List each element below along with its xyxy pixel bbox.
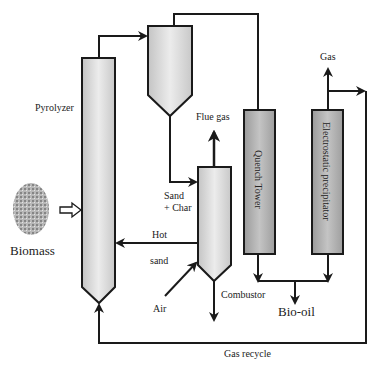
combustor-vessel	[198, 167, 231, 281]
air-line	[165, 263, 196, 296]
gas-label: Gas	[320, 52, 336, 62]
pyrolyzer-to-cyclone-line	[99, 36, 146, 58]
air-label: Air	[153, 304, 166, 314]
gas-recycle-label: Gas recycle	[224, 349, 271, 359]
sand-char-label-1: Sand	[164, 191, 184, 201]
pyrolyzer-label: Pyrolyzer	[35, 103, 74, 113]
cyclone-vessel	[148, 26, 192, 116]
biomass-feed-arrow	[60, 203, 81, 217]
sand-char-line	[170, 116, 196, 182]
hot-sand-label-1: Hot	[152, 230, 167, 240]
flue-gas-label: Flue gas	[196, 112, 230, 122]
combustor-label: Combustor	[221, 290, 265, 300]
sand-char-label-2: + Char	[164, 203, 192, 213]
hot-sand-label-2: sand	[150, 256, 168, 266]
esp-label: Electrostatic precipitator	[321, 122, 331, 221]
quench-tower-label: Quench Tower	[253, 150, 263, 209]
pyrolyzer-vessel	[82, 58, 115, 303]
biomass-label: Biomass	[10, 244, 55, 257]
biomass-pile-icon	[13, 183, 49, 235]
bio-oil-label: Bio-oil	[278, 305, 315, 318]
